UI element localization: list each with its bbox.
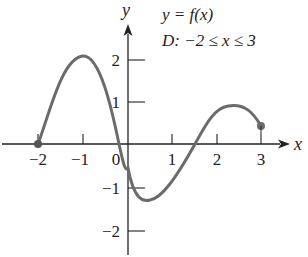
left-endpoint-dot (34, 140, 42, 148)
x-tick-label: 2 (213, 150, 222, 169)
x-tick-label: 3 (257, 150, 266, 169)
x-ticks (38, 134, 261, 144)
x-tick-label: −1 (71, 150, 89, 169)
y-tick-label: 1 (112, 93, 121, 112)
function-graph: −2 −1 0 1 2 3 2 1 −1 −2 x y y = f(x) D: … (0, 0, 308, 257)
origin-label: 0 (112, 150, 121, 169)
y-axis-label: y (120, 0, 130, 20)
function-curve (38, 56, 261, 201)
y-tick-label: −1 (102, 179, 120, 198)
function-label: y = f(x) (160, 5, 213, 24)
y-tick-label: 2 (112, 51, 121, 70)
domain-label: D: −2 ≤ x ≤ 3 (161, 31, 256, 50)
x-tick-label: 1 (168, 150, 177, 169)
y-ticks (128, 60, 145, 231)
x-tick-label: −2 (29, 150, 47, 169)
x-axis-label: x (293, 134, 302, 154)
y-tick-label: −2 (102, 222, 120, 241)
